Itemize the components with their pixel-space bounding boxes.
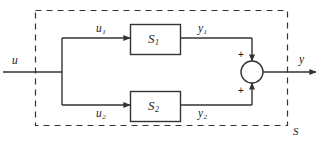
block-s1-label: S1	[148, 32, 159, 47]
input-signal-label: u	[12, 55, 18, 67]
block-diagram: u u1 S1 y1 u2 S2 y2 + + y S	[0, 0, 322, 145]
summing-junction-plus-bottom: +	[238, 86, 244, 96]
diagram-canvas	[0, 0, 322, 145]
branch2-output-signal-label: y2	[198, 108, 207, 121]
branch1-output-signal-label: y1	[198, 23, 207, 36]
system-boundary-label: S	[293, 126, 299, 137]
output-signal-label: y	[299, 54, 304, 66]
summing-junction-plus-top: +	[238, 50, 244, 60]
branch2-input-signal-label: u2	[96, 108, 106, 121]
block-s2-label: S2	[148, 99, 159, 114]
summing-junction-circle[interactable]	[241, 61, 263, 83]
branch1-input-signal-label: u1	[96, 23, 106, 36]
